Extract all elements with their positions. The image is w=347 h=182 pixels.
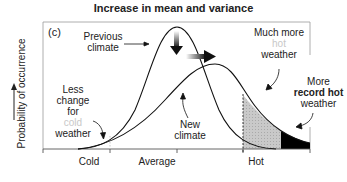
- much-more-hot-line-3: weather: [250, 49, 308, 60]
- previous-climate-label: Previous climate: [78, 31, 128, 53]
- record-hot-pointer: [296, 113, 313, 129]
- hot-weather-region: [243, 95, 281, 149]
- shift-down-arrow: [170, 31, 183, 55]
- much-more-hot-label: Much more hot weather: [250, 27, 308, 60]
- new-climate-pointer: [181, 93, 189, 118]
- record-hot-line-1: More: [290, 76, 347, 87]
- less-change-line-4: cold: [50, 117, 96, 128]
- much-more-hot-pointer: [266, 69, 279, 90]
- x-tick-cold: Cold: [59, 156, 119, 167]
- previous-climate-line-1: Previous: [78, 31, 128, 42]
- new-climate-line-2: climate: [170, 130, 210, 141]
- new-climate-line-1: New: [170, 119, 210, 130]
- less-change-line-2: change: [50, 95, 96, 106]
- new-climate-label: New climate: [170, 119, 210, 141]
- more-record-hot-label: More record hot weather: [290, 76, 347, 109]
- y-axis-up-arrow-icon: [8, 82, 20, 122]
- less-change-line-1: Less: [50, 84, 96, 95]
- less-change-line-5: weather: [50, 128, 96, 139]
- much-more-hot-line-1: Much more: [250, 27, 308, 38]
- x-tick-hot: Hot: [226, 156, 286, 167]
- less-change-cold-label: Less change for cold weather: [50, 84, 96, 139]
- x-tick-average: Average: [127, 156, 187, 167]
- panel-label: (c): [48, 27, 61, 38]
- x-axis-ticks: [43, 149, 310, 153]
- less-change-line-3: for: [50, 106, 96, 117]
- much-more-hot-line-2: hot: [250, 38, 308, 49]
- record-hot-line-2: record hot: [290, 87, 347, 98]
- record-hot-line-3: weather: [290, 98, 347, 109]
- previous-climate-line-2: climate: [78, 42, 128, 53]
